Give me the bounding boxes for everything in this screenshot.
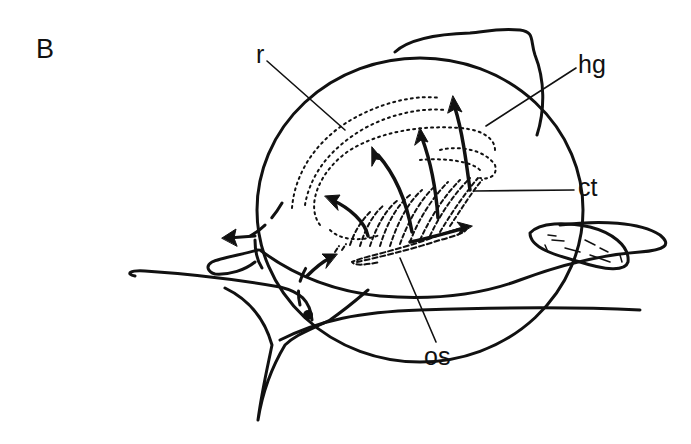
tentacle-left [208, 250, 258, 274]
label-hg: hg [578, 52, 606, 77]
exhalant-current-top [250, 203, 282, 236]
leader-line-os [400, 258, 436, 342]
label-ct: ct [578, 175, 597, 200]
operculum-markings [545, 235, 622, 262]
label-os: os [424, 344, 450, 369]
eye [303, 310, 313, 320]
shell-spire [395, 29, 543, 135]
leader-line-ct [474, 190, 574, 191]
label-r: r [256, 42, 264, 67]
panel-letter: B [36, 36, 54, 63]
rectum-dotted [292, 97, 495, 239]
leader-line-r [267, 61, 345, 130]
foot-sole [280, 308, 640, 340]
ciliary-arrowheads [325, 96, 472, 235]
